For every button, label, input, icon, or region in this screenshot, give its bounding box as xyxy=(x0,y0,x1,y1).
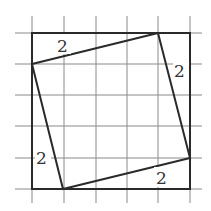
label-bottom: 2 xyxy=(156,168,167,188)
diagram-canvas: 2 2 2 2 xyxy=(0,0,211,211)
outer-square xyxy=(32,33,190,189)
inner-tilted-square xyxy=(32,33,190,189)
label-top: 2 xyxy=(57,36,68,56)
label-right: 2 xyxy=(174,61,185,81)
label-left: 2 xyxy=(36,148,47,168)
